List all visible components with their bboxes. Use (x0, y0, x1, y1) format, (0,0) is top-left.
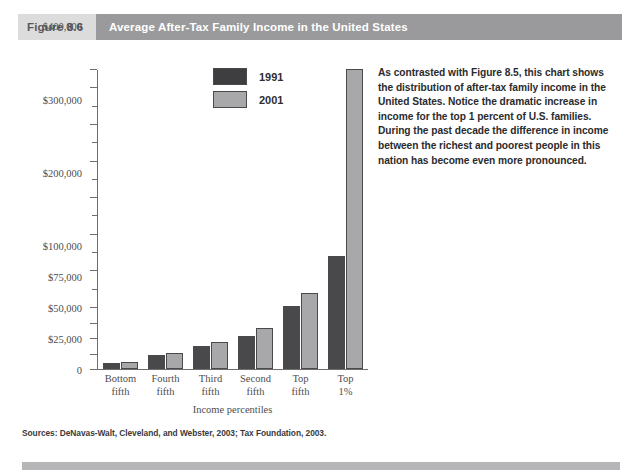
bar-group (278, 70, 323, 369)
y-axis-tick: $200,000 (90, 270, 97, 271)
y-axis-tick (92, 289, 97, 290)
y-axis-tick: $300,000 (90, 234, 97, 235)
y-axis-tick-label: $100,000 (43, 241, 82, 252)
figure-header: Figure 8.6 Average After-Tax Family Inco… (18, 14, 622, 40)
y-axis-tick-label: $50,000 (48, 303, 82, 314)
y-axis-tick (92, 106, 97, 107)
source-note: Sources: DeNavas-Walt, Cleveland, and We… (22, 428, 326, 438)
bar-2001-top-1- (346, 69, 363, 369)
bar-1991-fourth-fifth (148, 355, 165, 369)
y-axis-tick (92, 215, 97, 216)
x-axis-label-line: 1% (318, 386, 374, 399)
footer-divider (22, 462, 620, 470)
bar-1991-second-fifth (238, 336, 255, 369)
bar-2001-second-fifth (256, 328, 273, 369)
bar-1991-top-fifth (283, 306, 300, 369)
y-axis-tick-label: $25,000 (48, 334, 82, 345)
y-axis-tick (92, 252, 97, 253)
y-axis-tick (92, 179, 97, 180)
figure-caption: As contrasted with Figure 8.5, this char… (378, 66, 618, 168)
x-axis-title: Income percentiles (97, 404, 368, 415)
chart-plot-area: $750,000$700,000$600,000$500,000$400,000… (97, 70, 368, 370)
bar-1991-bottom-fifth (103, 363, 120, 369)
bar-group (323, 70, 368, 369)
y-axis-tick: $500,000 (90, 161, 97, 162)
y-axis-tick: $600,000 (90, 124, 97, 125)
bar-2001-bottom-fifth (121, 362, 138, 369)
bar-group (143, 70, 188, 369)
x-axis-label-top-1-: Top1% (318, 373, 374, 398)
y-axis-tick-label: $75,000 (48, 272, 82, 283)
y-axis-tick-label: $300,000 (43, 94, 82, 105)
bar-1991-top-1- (328, 256, 345, 369)
y-axis-tick (92, 142, 97, 143)
y-axis-tick: $25,000 (90, 354, 97, 355)
bar-2001-top-fifth (301, 293, 318, 369)
y-axis-tick-label: $400,000 (43, 21, 82, 32)
y-axis-tick: $750,000 (90, 69, 97, 70)
bar-group (98, 70, 143, 369)
y-axis-tick-label: $200,000 (43, 167, 82, 178)
y-axis-tick: $100,000 (90, 307, 97, 308)
bar-series-container (98, 70, 368, 369)
x-axis-line (97, 369, 368, 370)
bar-2001-third-fifth (211, 342, 228, 369)
bar-group (233, 70, 278, 369)
y-axis-tick: 0 (90, 369, 97, 370)
y-axis-tick: $700,000 (90, 87, 97, 88)
y-axis-tick: $75,000 (90, 323, 97, 324)
y-axis-tick: $400,000 (90, 197, 97, 198)
x-axis-label-line: Top (318, 373, 374, 386)
y-axis-tick-label: 0 (77, 365, 82, 376)
y-axis-tick: $50,000 (90, 338, 97, 339)
page-title: Average After-Tax Family Income in the U… (96, 14, 622, 40)
bar-2001-fourth-fifth (166, 353, 183, 369)
bar-1991-third-fifth (193, 346, 210, 369)
figure-container: Figure 8.6 Average After-Tax Family Inco… (0, 0, 639, 476)
bar-group (188, 70, 233, 369)
